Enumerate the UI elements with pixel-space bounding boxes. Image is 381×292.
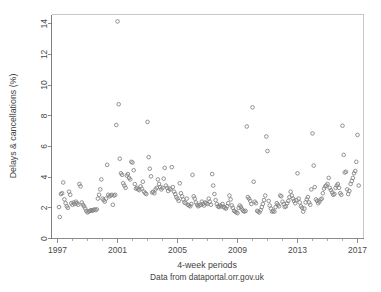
data-point [342, 153, 346, 157]
data-point [98, 188, 102, 192]
data-point [163, 166, 167, 170]
data-point [211, 184, 215, 188]
data-point [96, 197, 100, 201]
scatter-plot: 02468101214 199720012005200920132017 Del… [0, 0, 381, 292]
chart-caption: Data from dataportal.orr.gov.uk [150, 272, 265, 282]
data-point [156, 178, 160, 182]
data-point [105, 163, 109, 167]
chart-figure: 02468101214 199720012005200920132017 Del… [0, 0, 381, 292]
data-point [265, 135, 269, 139]
data-point [214, 198, 218, 202]
data-point [312, 164, 316, 168]
x-tick-label-1997: 1997 [48, 245, 67, 255]
data-point [245, 125, 249, 129]
y-tick-label-14: 14 [39, 19, 49, 29]
y-tick-label-2: 2 [39, 205, 49, 210]
data-point [357, 184, 361, 188]
data-point [162, 177, 166, 181]
data-point [111, 203, 115, 207]
data-point [266, 149, 270, 153]
data-point [341, 124, 345, 128]
data-point [213, 192, 217, 196]
data-point [133, 182, 137, 186]
data-point [298, 201, 302, 205]
data-point [57, 205, 61, 209]
y-tick-label-12: 12 [39, 49, 49, 59]
x-tick-label-2005: 2005 [168, 245, 187, 255]
y-tick-label-4: 4 [39, 174, 49, 179]
y-tick-label-8: 8 [39, 113, 49, 118]
data-point [141, 180, 145, 184]
data-point [210, 172, 214, 176]
data-point [252, 180, 256, 184]
y-tick-label-10: 10 [39, 80, 49, 90]
data-point [171, 185, 175, 189]
data-point [229, 198, 233, 202]
data-point [132, 168, 136, 172]
x-axis-title: 4-week periods [177, 260, 237, 270]
data-point [262, 198, 266, 202]
data-point [356, 133, 360, 137]
x-tick-label-2013: 2013 [288, 245, 307, 255]
data-point [97, 193, 101, 197]
data-point [327, 176, 331, 180]
data-point [149, 175, 153, 179]
data-points [57, 20, 360, 219]
y-tick-label-0: 0 [39, 236, 49, 241]
data-point [311, 132, 315, 136]
data-point [280, 195, 284, 199]
data-point [289, 190, 293, 194]
x-tick-label-2001: 2001 [108, 245, 127, 255]
data-point [191, 173, 195, 177]
y-axis-ticks: 02468101214 [39, 19, 52, 241]
data-point [63, 198, 67, 202]
data-point [58, 215, 62, 219]
x-tick-label-2017: 2017 [348, 245, 367, 255]
data-point [145, 192, 149, 196]
data-point [228, 194, 232, 198]
data-point [117, 102, 121, 106]
data-point [296, 171, 300, 175]
data-point [116, 20, 120, 24]
data-point [267, 199, 271, 203]
data-point [251, 106, 255, 110]
data-point [146, 120, 150, 124]
y-axis-title: Delays & cancellations (%) [8, 74, 18, 179]
data-point [118, 157, 122, 161]
data-point [313, 185, 317, 189]
x-tick-label-2009: 2009 [228, 245, 247, 255]
data-point [321, 191, 325, 195]
data-point [178, 181, 182, 185]
data-point [185, 197, 189, 201]
data-point [61, 181, 65, 185]
x-axis-ticks: 199720012005200920132017 [48, 239, 367, 255]
data-point [100, 178, 104, 182]
data-point [170, 165, 174, 169]
y-tick-label-6: 6 [39, 144, 49, 149]
data-point [263, 194, 267, 198]
data-point [147, 155, 151, 159]
data-point [115, 123, 119, 127]
data-point [310, 188, 314, 192]
data-point [355, 160, 359, 164]
data-point [148, 167, 152, 171]
